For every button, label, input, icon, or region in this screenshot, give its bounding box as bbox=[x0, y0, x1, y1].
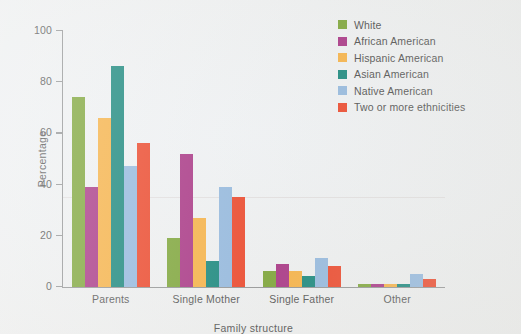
legend-swatch-icon bbox=[338, 53, 347, 62]
y-tick bbox=[56, 286, 62, 287]
legend-item[interactable]: Native American bbox=[338, 84, 465, 97]
legend-label: African American bbox=[354, 35, 436, 47]
bar[interactable] bbox=[302, 276, 315, 286]
bar[interactable] bbox=[72, 97, 85, 286]
bar[interactable] bbox=[232, 197, 245, 287]
bar[interactable] bbox=[98, 118, 111, 287]
bar[interactable] bbox=[328, 266, 341, 286]
bar[interactable] bbox=[423, 279, 436, 287]
x-tick-label: Single Father bbox=[254, 293, 350, 305]
legend-label: Native American bbox=[354, 85, 433, 97]
y-tick-label: 0 bbox=[46, 280, 52, 292]
bar[interactable] bbox=[263, 271, 276, 286]
bar-group: Single Father bbox=[254, 31, 350, 287]
legend-item[interactable]: African American bbox=[338, 35, 465, 48]
legend-swatch-icon bbox=[338, 20, 347, 29]
bar[interactable] bbox=[167, 238, 180, 287]
legend-label: Asian American bbox=[354, 68, 429, 80]
chart-legend: WhiteAfrican AmericanHispanic AmericanAs… bbox=[338, 18, 465, 114]
bar[interactable] bbox=[358, 284, 371, 287]
legend-item[interactable]: Two or more ethnicities bbox=[338, 101, 465, 114]
y-tick bbox=[56, 235, 62, 236]
bar[interactable] bbox=[410, 274, 423, 287]
bar[interactable] bbox=[85, 187, 98, 287]
y-tick-label: 20 bbox=[40, 229, 52, 241]
x-tick-label: Other bbox=[350, 293, 446, 305]
x-tick-label: Parents bbox=[63, 293, 159, 305]
legend-label: Two or more ethnicities bbox=[354, 101, 465, 113]
x-axis bbox=[62, 287, 445, 288]
bar[interactable] bbox=[111, 66, 124, 286]
y-tick bbox=[56, 81, 62, 82]
bar-group: Single Mother bbox=[159, 31, 255, 287]
y-tick bbox=[56, 184, 62, 185]
bar[interactable] bbox=[276, 264, 289, 287]
legend-label: White bbox=[354, 19, 382, 31]
bar[interactable] bbox=[180, 154, 193, 287]
legend-item[interactable]: Asian American bbox=[338, 68, 465, 81]
bar[interactable] bbox=[137, 143, 150, 286]
y-axis-label: Percentage bbox=[36, 131, 48, 188]
bar[interactable] bbox=[397, 284, 410, 287]
bar[interactable] bbox=[371, 284, 384, 287]
y-tick bbox=[56, 30, 62, 31]
legend-item[interactable]: Hispanic American bbox=[338, 51, 465, 64]
bar[interactable] bbox=[289, 271, 302, 286]
y-tick-label: 80 bbox=[40, 75, 52, 87]
bar-group: Parents bbox=[63, 31, 159, 287]
y-tick-label: 100 bbox=[34, 24, 52, 36]
legend-swatch-icon bbox=[338, 37, 347, 46]
legend-swatch-icon bbox=[338, 70, 347, 79]
legend-swatch-icon bbox=[338, 86, 347, 95]
x-tick-label: Single Mother bbox=[159, 293, 255, 305]
legend-label: Hispanic American bbox=[354, 52, 444, 64]
y-tick bbox=[56, 132, 62, 133]
bar[interactable] bbox=[384, 284, 397, 287]
legend-item[interactable]: White bbox=[338, 18, 465, 31]
bar[interactable] bbox=[219, 187, 232, 287]
bar[interactable] bbox=[206, 261, 219, 287]
x-axis-label: Family structure bbox=[62, 322, 445, 334]
bar[interactable] bbox=[193, 218, 206, 287]
bar[interactable] bbox=[124, 166, 137, 286]
bar[interactable] bbox=[315, 258, 328, 286]
chart-page: 020406080100 Percentage ParentsSingle Mo… bbox=[0, 0, 521, 334]
legend-swatch-icon bbox=[338, 103, 347, 112]
